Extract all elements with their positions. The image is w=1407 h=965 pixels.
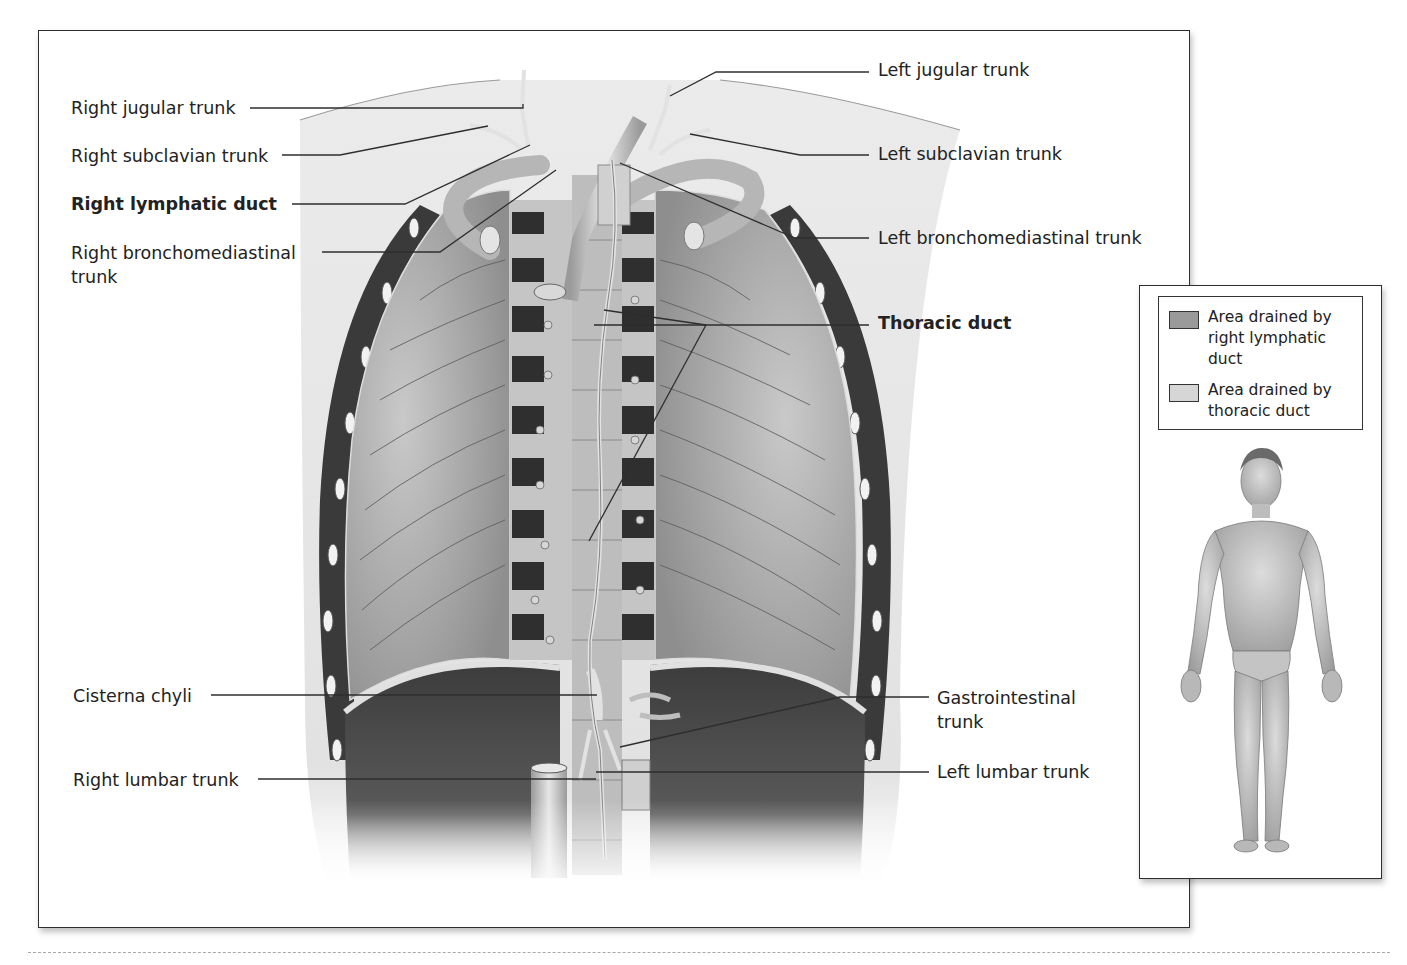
- legend-item-right-lymphatic-area: Area drained by right lymphatic duct: [1169, 307, 1358, 370]
- label-right-jugular-trunk: Right jugular trunk: [71, 96, 236, 120]
- legend-item-thoracic-duct-area: Area drained by thoracic duct: [1169, 380, 1358, 422]
- swatch-dark-gray: [1169, 311, 1199, 329]
- label-right-bronchomediastinal-trunk: Right bronchomediastinal trunk: [71, 241, 316, 289]
- label-right-lymphatic-duct: Right lymphatic duct: [71, 192, 277, 216]
- human-body-figure: [1140, 436, 1383, 876]
- swatch-light-gray: [1169, 384, 1199, 402]
- inset-panel: Area drained by right lymphatic duct Are…: [1139, 285, 1382, 879]
- legend: Area drained by right lymphatic duct Are…: [1158, 296, 1363, 430]
- page-divider: [28, 952, 1390, 953]
- label-left-subclavian-trunk: Left subclavian trunk: [878, 142, 1062, 166]
- label-gastrointestinal-trunk: Gastrointestinal trunk: [937, 686, 1097, 734]
- label-right-lumbar-trunk: Right lumbar trunk: [73, 768, 239, 792]
- legend-text: Area drained by thoracic duct: [1208, 380, 1358, 422]
- legend-text: Area drained by right lymphatic duct: [1208, 307, 1358, 370]
- label-left-lumbar-trunk: Left lumbar trunk: [937, 760, 1089, 784]
- label-right-subclavian-trunk: Right subclavian trunk: [71, 144, 268, 168]
- label-cisterna-chyli: Cisterna chyli: [73, 684, 192, 708]
- label-left-jugular-trunk: Left jugular trunk: [878, 58, 1029, 82]
- label-thoracic-duct: Thoracic duct: [878, 311, 1011, 335]
- label-left-bronchomediastinal-trunk: Left bronchomediastinal trunk: [878, 226, 1142, 250]
